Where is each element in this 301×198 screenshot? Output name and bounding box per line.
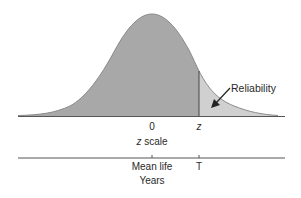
years-label: Years [139, 175, 164, 186]
reliability-label: Reliability [231, 82, 277, 94]
z-scale-label: z scale [135, 136, 168, 147]
mean-life-label: Mean life [132, 161, 173, 172]
failure-area [18, 14, 199, 116]
t-label: T [196, 161, 202, 172]
z-axis-z-label: z [196, 121, 202, 132]
reliability-normal-diagram: Reliability 0 z z scale Mean life T Year… [0, 0, 301, 198]
z-scale-text: scale [141, 136, 168, 147]
z-axis-zero-label: 0 [149, 121, 155, 132]
